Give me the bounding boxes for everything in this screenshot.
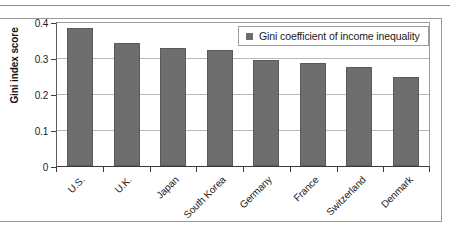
x-axis-labels: U.S. U.K. Japan South Korea Germany Fran… — [56, 172, 430, 234]
x-label-uk: U.K. — [113, 174, 134, 195]
bar-japan[interactable] — [160, 48, 186, 166]
x-label-germany: Germany — [238, 174, 274, 210]
x-label-slot: Denmark — [383, 172, 430, 234]
bar-us[interactable] — [67, 28, 93, 166]
y-tick-label: 0.3 — [35, 54, 48, 65]
chart-legend[interactable]: Gini coefficient of income inequality — [238, 26, 429, 46]
x-label-slot: Germany — [243, 172, 290, 234]
y-tick-label: 0 — [43, 162, 48, 173]
y-tick-label: 0.4 — [35, 18, 48, 29]
x-label-slot: Switzerland — [337, 172, 384, 234]
legend-swatch-icon — [246, 33, 253, 40]
y-tick-label: 0.1 — [35, 126, 48, 137]
chart-page: Gini index score 0.4 0.3 0.2 0.1 0 — [0, 0, 450, 236]
bar-switzerland[interactable] — [346, 67, 372, 166]
x-label-us: U.S. — [66, 174, 87, 195]
bar-germany[interactable] — [253, 60, 279, 166]
x-label-japan: Japan — [154, 174, 181, 201]
bar-slot — [57, 23, 104, 166]
bar-slot — [197, 23, 244, 166]
x-label-slot: South Korea — [196, 172, 243, 234]
x-label-slot: U.K. — [103, 172, 150, 234]
legend-label: Gini coefficient of income inequality — [259, 30, 420, 42]
x-label-denmark: Denmark — [378, 174, 414, 210]
bar-south-korea[interactable] — [207, 50, 233, 166]
y-tick-label: 0.2 — [35, 90, 48, 101]
y-axis-ticks: 0.4 0.3 0.2 0.1 0 — [0, 22, 56, 168]
bar-france[interactable] — [300, 63, 326, 166]
bar-slot — [104, 23, 151, 166]
x-label-france: France — [292, 174, 321, 203]
page-top-rule — [0, 5, 450, 6]
x-label-slot: U.S. — [56, 172, 103, 234]
bar-denmark[interactable] — [393, 77, 419, 166]
bar-uk[interactable] — [114, 43, 140, 166]
bar-slot — [150, 23, 197, 166]
